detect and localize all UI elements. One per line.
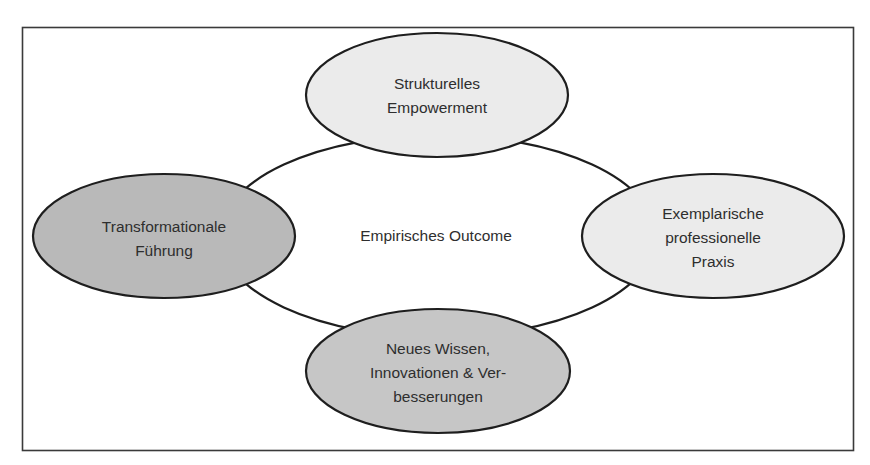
node-label-right-line-3: Praxis — [691, 253, 734, 270]
central-outcome-label: Empirisches Outcome — [360, 227, 512, 244]
node-ellipse-top — [306, 33, 568, 157]
node-exemplarische-praxis: Exemplarische professionelle Praxis — [582, 174, 844, 298]
node-label-right-line-2: professionelle — [665, 229, 761, 246]
node-label-bottom-line-1: Neues Wissen, — [386, 340, 490, 357]
node-label-right-line-1: Exemplarische — [662, 205, 764, 222]
node-label-bottom-line-3: besserungen — [393, 388, 483, 405]
node-label-bottom-line-2: Innovationen & Ver- — [370, 364, 506, 381]
node-label-left-line-1: Transformationale — [102, 218, 226, 235]
node-neues-wissen: Neues Wissen, Innovationen & Ver- besser… — [306, 309, 570, 433]
node-label-top-line-2: Empowerment — [387, 99, 488, 116]
diagram-canvas: Strukturelles Empowerment Transformation… — [0, 0, 870, 465]
node-label-left-line-2: Führung — [135, 242, 193, 259]
node-transformationale-fuehrung: Transformationale Führung — [33, 174, 295, 298]
node-strukturelles-empowerment: Strukturelles Empowerment — [306, 33, 568, 157]
node-ellipse-left — [33, 174, 295, 298]
node-label-top-line-1: Strukturelles — [394, 75, 480, 92]
